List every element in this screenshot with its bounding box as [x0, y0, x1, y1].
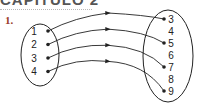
codomain-target-dot [162, 17, 166, 21]
domain-element-label: 2 [31, 39, 37, 50]
mapping-arrow [48, 61, 164, 91]
codomain-element-label: 5 [168, 38, 174, 49]
domain-element-label: 1 [31, 26, 37, 37]
codomain-element-label: 4 [168, 26, 174, 37]
codomain-target-dot [162, 41, 166, 45]
domain-element-label: 3 [31, 53, 37, 64]
codomain-target-dot [162, 89, 166, 93]
mapping-arrow [48, 13, 164, 31]
codomain-element-label: 9 [168, 86, 174, 97]
domain-element-label: 4 [31, 66, 37, 77]
mapping-arrow [48, 45, 164, 67]
codomain-element-label: 7 [168, 62, 174, 73]
mapping-diagram: 1234 3456789 [0, 0, 198, 103]
codomain-element-label: 8 [168, 74, 174, 85]
codomain-element-label: 6 [168, 50, 174, 61]
codomain-target-dot [162, 65, 166, 69]
codomain-element-label: 3 [168, 14, 174, 25]
